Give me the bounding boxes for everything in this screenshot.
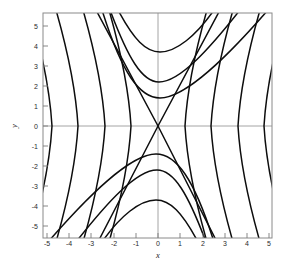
y-tick-label: 5 (22, 23, 38, 30)
y-tick-label: 2 (22, 83, 38, 90)
figure-container: -5 -4 -3 -2 -1 0 1 2 3 4 5 -5 -4 -3 -2 -… (0, 0, 291, 270)
x-tick-label: 0 (156, 240, 160, 247)
y-tick-label: -2 (22, 163, 38, 170)
y-tick-label: 3 (22, 63, 38, 70)
y-tick-label: -4 (22, 203, 38, 210)
x-tick-label: -1 (133, 240, 139, 247)
y-tick-label: -5 (22, 223, 38, 230)
x-tick-label: 1 (178, 240, 182, 247)
y-tick-label: 4 (22, 43, 38, 50)
x-tick-label: 3 (223, 240, 227, 247)
x-tick-label: -2 (111, 240, 117, 247)
x-axis-title: x (156, 250, 160, 260)
contour-plot-canvas (0, 0, 291, 270)
x-tick-label: 2 (201, 240, 205, 247)
figure-background (0, 0, 291, 270)
x-tick-label: 5 (267, 240, 271, 247)
x-tick-label: 4 (245, 240, 249, 247)
y-tick-label: -1 (22, 143, 38, 150)
y-axis-title: y (9, 124, 19, 128)
y-tick-label: 0 (22, 123, 38, 130)
x-tick-label: -3 (88, 240, 94, 247)
x-tick-label: -4 (66, 240, 72, 247)
x-tick-label: -5 (44, 240, 50, 247)
y-tick-label: 1 (22, 103, 38, 110)
y-tick-label: -3 (22, 183, 38, 190)
